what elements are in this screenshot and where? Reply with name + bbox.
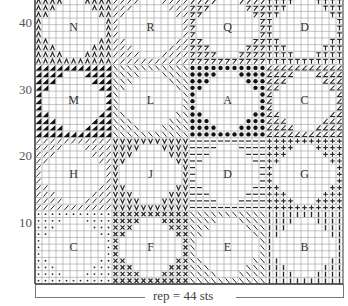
block-letter: J (148, 167, 153, 181)
block-letter: G (300, 167, 309, 181)
block-letter: M (68, 93, 79, 107)
block-letter: R (146, 20, 154, 34)
repeat-label: rep = 44 sts (148, 288, 218, 304)
block-letter: Q (223, 20, 232, 34)
row-label-10: 10 (0, 215, 32, 231)
block-letter: A (223, 93, 232, 107)
block-letter: N (69, 20, 78, 34)
repeat-bracket-line-right (236, 297, 343, 298)
repeat-bracket-line-left (35, 297, 145, 298)
block-letter: F (147, 240, 154, 254)
knitting-chart: CFEBHJDGMLACNRQD (0, 0, 348, 306)
block-letter: L (147, 93, 154, 107)
block-letter: H (69, 167, 78, 181)
row-label-30: 30 (0, 82, 32, 98)
repeat-bracket-tick-left (35, 284, 36, 298)
repeat-bracket-tick-right (343, 284, 344, 298)
block-letter: D (223, 167, 232, 181)
block-letter: E (224, 240, 231, 254)
block-letter: D (300, 20, 309, 34)
block-letter: C (300, 93, 308, 107)
row-label-20: 20 (0, 148, 32, 164)
block-letter: C (69, 240, 77, 254)
block-letter: B (300, 240, 308, 254)
row-label-40: 40 (0, 15, 32, 31)
